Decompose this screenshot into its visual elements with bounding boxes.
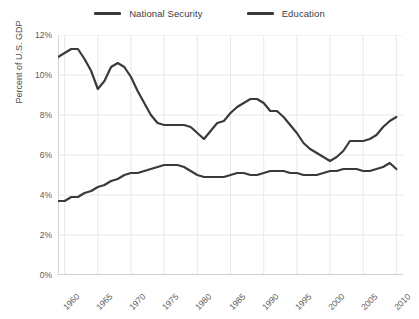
y-axis-tick-label: 2% <box>40 230 52 240</box>
chart-legend: National Security Education <box>0 8 419 19</box>
plot-area: Percent of U.S. GDP 0%2%4%6%8%10%12% 196… <box>58 35 403 275</box>
x-axis-tick-label: 1960 <box>63 289 83 309</box>
legend-swatch-icon <box>247 12 274 15</box>
x-axis-tick-label: 2005 <box>362 289 382 309</box>
y-axis-tick-label: 12% <box>35 30 52 40</box>
x-axis-tick-label: 1970 <box>130 289 150 309</box>
x-axis-tick-label: 2010 <box>395 289 415 309</box>
x-axis-tick-label: 1965 <box>97 289 117 309</box>
x-axis-tick-label: 1980 <box>196 289 216 309</box>
x-axis-tick-label: 2000 <box>329 289 349 309</box>
y-axis-tick-label: 4% <box>40 190 52 200</box>
legend-item-education[interactable]: Education <box>247 8 325 19</box>
y-axis-title: Percent of U.S. GDP <box>14 0 24 127</box>
legend-swatch-icon <box>94 12 121 15</box>
x-axis-tick-label: 1975 <box>163 289 183 309</box>
legend-label: Education <box>282 8 325 19</box>
chart-canvas <box>58 35 403 275</box>
y-axis-tick-label: 8% <box>40 110 52 120</box>
x-axis-tick-label: 1995 <box>296 289 316 309</box>
y-axis-tick-label: 10% <box>35 70 52 80</box>
chart-container: National Security Education Percent of U… <box>0 0 419 319</box>
legend-label: National Security <box>129 8 203 19</box>
legend-item-national-security[interactable]: National Security <box>94 8 203 19</box>
x-axis-tick-label: 1990 <box>263 289 283 309</box>
x-axis-tick-label: 1985 <box>229 289 249 309</box>
y-axis-tick-label: 6% <box>40 150 52 160</box>
y-axis-tick-label: 0% <box>40 270 52 280</box>
